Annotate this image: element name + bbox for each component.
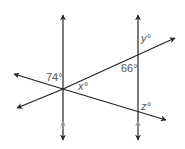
angle-label-y: y° bbox=[141, 33, 151, 44]
angle-label-74: 74° bbox=[46, 72, 63, 83]
angle-label-z: z° bbox=[141, 101, 151, 112]
transversal-falling bbox=[14, 74, 166, 120]
angle-label-66: 66° bbox=[121, 63, 138, 74]
angle-label-x: x° bbox=[78, 81, 88, 92]
transversal-rising bbox=[17, 38, 175, 108]
diagram-canvas bbox=[0, 0, 185, 149]
